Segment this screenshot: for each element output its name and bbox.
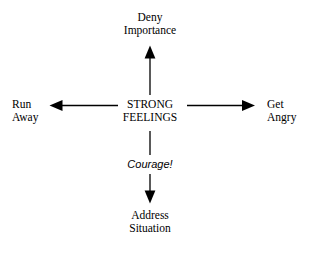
arrow-up-head <box>145 46 156 59</box>
arrow-left <box>50 100 119 111</box>
node-strong-feelings-line1: STRONG <box>119 98 181 111</box>
edge-label-courage: Courage! <box>118 158 182 170</box>
node-deny-importance: Deny Importance <box>112 11 188 36</box>
arrow-up <box>145 46 156 96</box>
node-strong-feelings-line2: FEELINGS <box>119 111 181 124</box>
arrow-down-head <box>145 191 156 204</box>
node-get-angry: Get Angry <box>267 98 309 123</box>
node-get-angry-line2: Angry <box>267 111 309 124</box>
arrow-right <box>187 100 255 111</box>
node-deny-importance-line1: Deny <box>112 11 188 24</box>
node-run-away: Run Away <box>12 98 52 123</box>
node-get-angry-line1: Get <box>267 98 309 111</box>
node-strong-feelings: STRONG FEELINGS <box>119 98 181 123</box>
node-address-situation-line1: Address <box>114 209 186 222</box>
arrow-right-head <box>242 100 255 111</box>
node-run-away-line1: Run <box>12 98 52 111</box>
node-deny-importance-line2: Importance <box>112 24 188 37</box>
diagram-canvas: STRONG FEELINGS Deny Importance Address … <box>0 0 309 255</box>
node-address-situation-line2: Situation <box>114 222 186 235</box>
node-address-situation: Address Situation <box>114 209 186 234</box>
node-run-away-line2: Away <box>12 111 52 124</box>
